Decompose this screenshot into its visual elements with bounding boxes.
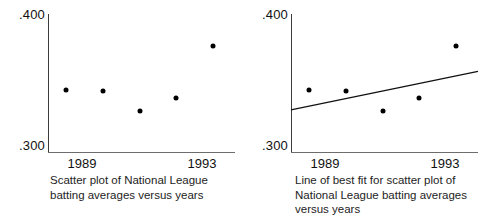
trend-line-svg [243,0,486,165]
data-point [454,43,459,48]
data-point [101,89,106,94]
line-of-best-fit-caption: Line of best fit for scatter plot of Nat… [295,173,485,217]
scatter-plot-area: .400 .300 1989 1993 [0,0,243,165]
y-axis-label-top: .400 [5,7,45,22]
x-tick-label-1993: 1993 [188,156,217,171]
data-point [137,108,142,113]
data-point [380,108,385,113]
y-axis-line [48,14,49,153]
x-axis-line [48,152,235,153]
data-point [174,96,179,101]
line-of-best-fit-plot-area: .400 .300 1989 1993 [243,0,486,165]
data-point [417,96,422,101]
scatter-plot-caption: Scatter plot of National League batting … [50,173,238,202]
line-of-best-fit-panel: .400 .300 1989 1993 Line of best fit for… [243,0,486,218]
data-point [211,43,216,48]
data-point [307,87,312,92]
y-axis-label-bottom: .300 [5,138,45,153]
figure-container: .400 .300 1989 1993 Scatter plot of Nati… [0,0,487,218]
data-point [344,89,349,94]
data-point [64,87,69,92]
x-tick-label-1989: 1989 [68,156,97,171]
line-of-best-fit [291,71,478,110]
scatter-plot-panel: .400 .300 1989 1993 Scatter plot of Nati… [0,0,243,218]
